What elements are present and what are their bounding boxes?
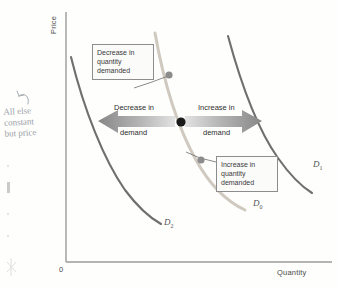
callout-iqd-line2: quantity: [221, 169, 273, 178]
increase-in-demand-label-line2: demand: [203, 128, 230, 137]
curve-label-d2: D2: [164, 217, 174, 229]
original-equilibrium-point: [176, 117, 185, 126]
callout-iqd-line1: Increase in: [221, 160, 273, 169]
curve-label-d0: D0: [253, 198, 263, 210]
handwritten-margin-note: All else constant but price: [3, 105, 36, 140]
callout-decrease-in-quantity-demanded: Decrease in quantity demanded: [92, 44, 154, 80]
callout-dqd-line2: quantity: [97, 57, 149, 66]
diagram-canvas: [0, 0, 338, 287]
decrease-in-demand-label-line1: Decrease in: [114, 103, 154, 112]
demand-curve-d2: [71, 57, 161, 224]
handwritten-arrow-icon: [17, 91, 28, 104]
decrease-in-quantity-demanded-point: [165, 71, 172, 78]
origin-label: 0: [59, 265, 63, 274]
callout-iqd-line3: demanded: [221, 178, 273, 187]
increase-in-demand-label-line1: Increase in: [198, 103, 235, 112]
callout-dqd-line3: demanded: [97, 66, 149, 75]
x-axis-label: Quantity: [277, 268, 307, 277]
curve-label-d1: D1: [313, 159, 323, 171]
curve-label-d1-sub: 1: [320, 165, 323, 171]
increase-in-quantity-demanded-point: [197, 156, 204, 163]
demand-shift-diagram: Price Quantity 0 D1 D0 D2 Decrease in qu…: [0, 0, 338, 287]
margin-scan-marks: [7, 165, 16, 276]
decrease-in-demand-label-line2: demand: [120, 128, 147, 137]
curve-label-d0-sub: 0: [260, 204, 263, 210]
y-axis-label: Price: [49, 16, 58, 34]
curve-label-d2-sub: 2: [171, 223, 174, 229]
callout-dqd-line1: Decrease in: [97, 48, 149, 57]
callout-increase-in-quantity-demanded: Increase in quantity demanded: [216, 156, 278, 192]
